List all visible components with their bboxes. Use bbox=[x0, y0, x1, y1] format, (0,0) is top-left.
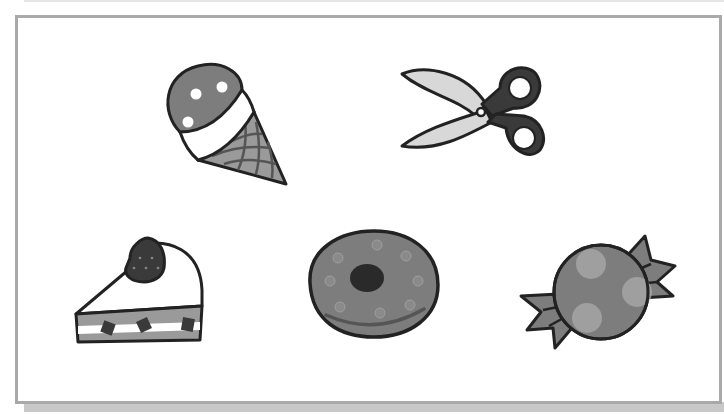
cake-icon bbox=[68, 230, 210, 348]
cookie-icon bbox=[300, 225, 446, 343]
candy-item[interactable] bbox=[515, 228, 685, 353]
candy-icon bbox=[515, 228, 685, 353]
scissors-item[interactable] bbox=[396, 58, 546, 172]
cake-item[interactable] bbox=[68, 230, 210, 348]
ice-cream-item[interactable] bbox=[150, 52, 298, 192]
ice-cream-icon bbox=[150, 52, 298, 192]
scissors-icon bbox=[396, 58, 546, 172]
top-edge-line bbox=[24, 0, 724, 2]
cookie-item[interactable] bbox=[300, 225, 446, 343]
